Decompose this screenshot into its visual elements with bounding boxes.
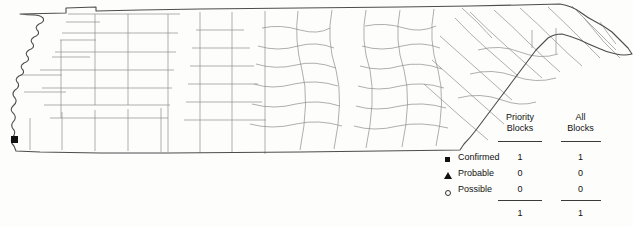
legend-total-all: 1 (553, 208, 608, 219)
legend-header-row: Priority Blocks All Blocks (440, 112, 615, 142)
legend-row-confirmed: Confirmed 1 1 (440, 150, 615, 166)
column-header-all-line1: All (553, 112, 608, 123)
filled-triangle-icon (444, 171, 453, 180)
total-rule-priority (498, 200, 542, 201)
map-markers (11, 136, 18, 143)
page-root: Priority Blocks All Blocks Confirmed 1 1… (0, 0, 633, 227)
legend-row-possible: Possible 0 0 (440, 182, 615, 198)
legend-value-possible-all: 0 (553, 184, 608, 195)
open-circle-icon (444, 187, 453, 196)
header-rule-priority (498, 141, 542, 142)
total-rule-all (561, 200, 601, 201)
column-header-priority-blocks: Priority Blocks (490, 112, 550, 134)
column-header-priority-line1: Priority (490, 112, 550, 123)
header-rule-all (561, 141, 601, 142)
legend-value-possible-priority: 0 (490, 184, 550, 195)
legend-row-probable: Probable 0 0 (440, 166, 615, 182)
legend-value-probable-priority: 0 (490, 168, 550, 179)
column-header-all-blocks: All Blocks (553, 112, 608, 134)
legend-label-probable: Probable (458, 168, 494, 179)
marker-confirmed-square (11, 136, 18, 143)
legend-summary-table: Priority Blocks All Blocks Confirmed 1 1… (440, 112, 615, 224)
filled-square-icon (444, 155, 453, 164)
legend-label-possible: Possible (458, 184, 492, 195)
legend-value-confirmed-all: 1 (553, 152, 608, 163)
legend-total-priority: 1 (490, 208, 550, 219)
column-header-all-line2: Blocks (553, 123, 608, 134)
column-header-priority-line2: Blocks (490, 123, 550, 134)
legend-row-total: 1 1 (440, 206, 615, 220)
legend-value-probable-all: 0 (553, 168, 608, 179)
legend-value-confirmed-priority: 1 (490, 152, 550, 163)
